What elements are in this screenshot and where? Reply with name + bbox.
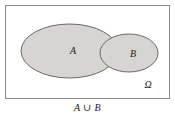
universe-omega-label: Ω bbox=[144, 79, 151, 90]
figure-caption: A ∪ B bbox=[0, 101, 175, 115]
venn-diagram-figure: A B Ω A ∪ B bbox=[0, 0, 175, 125]
venn-diagram-canvas: A B Ω bbox=[0, 0, 175, 100]
set-b-label: B bbox=[130, 48, 136, 59]
set-a-label: A bbox=[69, 45, 77, 56]
